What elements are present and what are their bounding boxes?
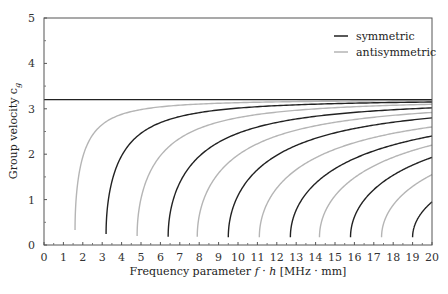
antisymmetric-mode-curve bbox=[259, 127, 432, 237]
x-tick-label: 3 bbox=[99, 251, 106, 264]
x-tick-label: 14 bbox=[309, 251, 323, 264]
y-axis-label: Group velocity cg bbox=[7, 83, 22, 179]
antisymmetric-mode-curve bbox=[75, 101, 432, 230]
x-tick-label: 6 bbox=[157, 251, 164, 264]
symmetric-mode-curve bbox=[351, 157, 432, 237]
x-tick-label: 10 bbox=[231, 251, 245, 264]
x-tick-label: 19 bbox=[406, 251, 420, 264]
x-tick-label: 16 bbox=[347, 251, 361, 264]
x-tick-label: 8 bbox=[196, 251, 203, 264]
x-tick-label: 12 bbox=[270, 251, 284, 264]
x-axis-label: Frequency parameter f · h [MHz · mm] bbox=[130, 265, 347, 278]
y-tick-label: 0 bbox=[28, 239, 35, 252]
x-tick-label: 18 bbox=[386, 251, 400, 264]
legend-label-antisymmetric: antisymmetric bbox=[356, 46, 436, 59]
x-tick-label: 5 bbox=[138, 251, 145, 264]
x-tick-label: 11 bbox=[250, 251, 264, 264]
x-tick-label: 15 bbox=[328, 251, 342, 264]
symmetric-mode-curve bbox=[168, 108, 432, 237]
x-tick-label: 20 bbox=[425, 251, 439, 264]
dispersion-chart: 01234567891011121314151617181920 012345 … bbox=[0, 0, 448, 294]
antisymmetric-mode-curve bbox=[197, 112, 432, 236]
legend: symmetric antisymmetric bbox=[334, 30, 436, 59]
symmetric-mode-curve bbox=[106, 102, 432, 234]
x-tick-label: 17 bbox=[367, 251, 381, 264]
y-tick-label: 2 bbox=[28, 148, 35, 161]
x-tick-label: 2 bbox=[79, 251, 86, 264]
y-tick-label: 4 bbox=[28, 57, 35, 70]
x-tick-label: 13 bbox=[289, 251, 303, 264]
mode-curves bbox=[75, 101, 432, 238]
x-tick-label: 7 bbox=[176, 251, 183, 264]
x-tick-label: 4 bbox=[118, 251, 125, 264]
x-tick-label: 0 bbox=[41, 251, 48, 264]
legend-label-symmetric: symmetric bbox=[356, 30, 415, 43]
x-tick-label: 9 bbox=[215, 251, 222, 264]
symmetric-mode-curve bbox=[413, 202, 432, 237]
symmetric-mode-curve bbox=[228, 118, 432, 237]
antisymmetric-mode-curve bbox=[137, 104, 432, 236]
y-tick-label: 5 bbox=[28, 12, 35, 25]
y-tick-label: 1 bbox=[28, 194, 35, 207]
antisymmetric-mode-curve bbox=[382, 175, 432, 238]
y-tick-label: 3 bbox=[28, 103, 35, 116]
x-tick-label: 1 bbox=[60, 251, 67, 264]
